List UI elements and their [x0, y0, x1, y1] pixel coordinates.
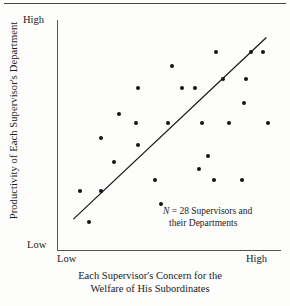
top-horizontal-rule — [4, 3, 286, 4]
y-axis-low-tick-label: Low — [27, 239, 46, 250]
data-point — [227, 121, 231, 125]
data-point — [221, 77, 225, 81]
x-axis-title: Each Supervisor's Concern for the Welfar… — [45, 270, 255, 295]
data-point — [200, 121, 204, 125]
data-point — [166, 121, 170, 125]
data-point — [244, 77, 248, 81]
figure-root: Productivity of Each Supervisor's Depart… — [0, 0, 290, 306]
x-axis-low-tick-label: Low — [57, 253, 76, 264]
data-point — [266, 121, 270, 125]
scatter-plot-area — [57, 20, 280, 250]
data-point — [99, 136, 103, 140]
data-point — [180, 86, 184, 90]
data-point — [212, 178, 216, 182]
data-point — [206, 154, 210, 158]
x-axis-line — [57, 250, 281, 251]
y-axis-title: Productivity of Each Supervisor's Depart… — [8, 11, 19, 231]
data-point — [112, 160, 116, 164]
data-point — [214, 50, 218, 54]
x-axis-title-line-1: Each Supervisor's Concern for the — [45, 270, 255, 283]
data-point — [240, 178, 244, 182]
data-point — [249, 50, 253, 54]
data-point — [87, 220, 91, 224]
data-point — [99, 189, 103, 193]
data-point — [134, 121, 138, 125]
data-point — [170, 64, 174, 68]
data-point — [159, 202, 163, 206]
data-point — [78, 189, 82, 193]
x-axis-title-line-2: Welfare of His Subordinates — [45, 283, 255, 296]
data-point — [197, 167, 201, 171]
data-point — [117, 112, 121, 116]
data-point — [136, 86, 140, 90]
y-axis-high-tick-label: High — [23, 14, 44, 25]
x-axis-high-tick-label: High — [246, 253, 267, 264]
data-point — [193, 86, 197, 90]
data-point — [261, 50, 265, 54]
data-point — [136, 143, 140, 147]
data-point — [242, 101, 246, 105]
data-point — [153, 178, 157, 182]
